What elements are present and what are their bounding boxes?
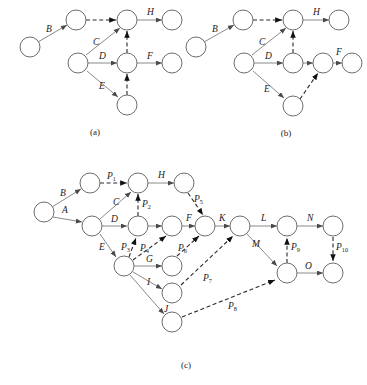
label-c-P7: P7 — [202, 273, 212, 284]
node-b6 — [313, 53, 333, 73]
node-a0 — [20, 37, 40, 57]
label-a-B: B — [46, 24, 52, 34]
node-c8 — [230, 216, 250, 236]
node-c1 — [80, 173, 100, 193]
edge-a-B — [38, 25, 67, 42]
edge-c-P8 — [182, 280, 275, 317]
node-c13 — [162, 283, 182, 303]
label-c-A: A — [61, 205, 68, 215]
node-a3 — [162, 10, 182, 30]
label-c-P4: P4 — [139, 243, 150, 254]
node-a7 — [117, 95, 137, 115]
node-c11 — [114, 256, 134, 276]
panel-b: B H C D F E (b) — [186, 7, 362, 138]
panel-c: B A P1 H C P2 D F K L N E P3 P4 P5 G P6 … — [34, 170, 348, 370]
node-c0 — [34, 202, 54, 222]
node-b8 — [283, 96, 303, 116]
edge-b-B — [204, 25, 234, 42]
label-b-E: E — [263, 84, 270, 94]
node-a6 — [162, 53, 182, 73]
node-c6 — [162, 216, 182, 236]
node-b2 — [283, 10, 303, 30]
node-c3 — [174, 173, 194, 193]
label-c-P3: P3 — [120, 242, 130, 253]
label-b-D: D — [264, 51, 272, 61]
edge-c-P3 — [129, 238, 136, 257]
node-b4 — [234, 53, 254, 73]
label-a-C: C — [93, 37, 100, 47]
node-c14 — [162, 312, 182, 332]
label-c-P10: P10 — [335, 242, 348, 253]
label-c-L: L — [260, 213, 266, 223]
label-c-P9: P9 — [290, 242, 300, 253]
node-c5 — [128, 216, 148, 236]
node-c7 — [195, 216, 215, 236]
label-a-F: F — [146, 51, 153, 61]
node-b7 — [342, 53, 362, 73]
node-b5 — [283, 53, 303, 73]
node-b0 — [186, 37, 206, 57]
node-a2 — [117, 10, 137, 30]
label-c-P5: P5 — [193, 194, 203, 205]
label-c-P8: P8 — [227, 301, 237, 312]
caption-c: (c) — [181, 360, 191, 370]
label-c-E: E — [98, 242, 105, 252]
label-b-C: C — [259, 37, 266, 47]
node-c15 — [277, 263, 297, 283]
caption-a: (a) — [90, 127, 100, 137]
node-c4 — [82, 216, 102, 236]
label-c-C: C — [113, 197, 120, 207]
node-b3 — [329, 10, 349, 30]
node-c10 — [323, 216, 343, 236]
node-c12 — [162, 256, 182, 276]
label-a-D: D — [98, 51, 106, 61]
label-b-F: F — [335, 47, 342, 57]
label-c-D: D — [110, 214, 118, 224]
node-a4 — [68, 53, 88, 73]
node-c9 — [277, 216, 297, 236]
caption-b: (b) — [281, 128, 292, 138]
label-c-P2: P2 — [141, 199, 151, 210]
node-a1 — [66, 10, 86, 30]
edge-b-p-b8-b6 — [300, 73, 318, 99]
label-a-E: E — [98, 81, 105, 91]
label-c-G: G — [146, 254, 153, 264]
label-c-B: B — [60, 188, 66, 198]
node-c2 — [128, 173, 148, 193]
label-c-P1: P1 — [106, 171, 116, 182]
petri-net-diagram: B H C D F E (a) B H C D F E (b) — [0, 0, 367, 385]
label-c-K: K — [218, 213, 226, 223]
label-a-H: H — [146, 7, 155, 17]
edge-c-A — [53, 217, 82, 222]
label-c-M: M — [251, 239, 261, 249]
figure-container: B H C D F E (a) B H C D F E (b) — [0, 0, 367, 385]
label-c-H: H — [157, 170, 166, 180]
label-c-O: O — [305, 261, 312, 271]
panel-a: B H C D F E (a) — [20, 7, 182, 137]
label-b-B: B — [212, 24, 218, 34]
label-c-P6: P6 — [177, 243, 187, 254]
node-b1 — [233, 10, 253, 30]
node-c16 — [323, 263, 343, 283]
label-c-F: F — [185, 213, 192, 223]
label-b-H: H — [312, 7, 321, 17]
node-a5 — [117, 53, 137, 73]
label-c-N: N — [306, 213, 314, 223]
